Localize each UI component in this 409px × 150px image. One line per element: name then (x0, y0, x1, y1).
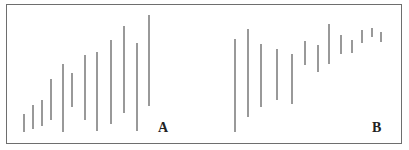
panel-a-bars (24, 15, 149, 132)
range-bar-chart: A B (0, 0, 409, 150)
panel-b-bars (235, 24, 381, 132)
panel-a-label: A (158, 120, 169, 135)
panel-b-label: B (372, 120, 381, 135)
